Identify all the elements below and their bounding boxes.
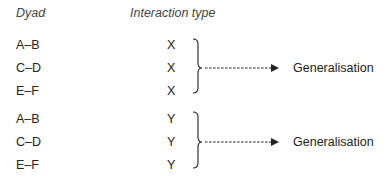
brace-icon: [193, 112, 202, 168]
arrowhead-icon: [271, 64, 279, 72]
connectors: [0, 0, 391, 177]
arrowhead-icon: [271, 138, 279, 146]
brace-icon: [193, 39, 202, 93]
